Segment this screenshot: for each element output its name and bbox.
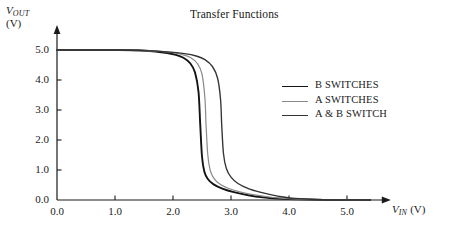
legend-label: A & B SWITCH xyxy=(315,108,387,119)
y-tick-label: 2.0 xyxy=(23,133,49,145)
y-tick-label: 1.0 xyxy=(23,163,49,175)
legend-swatch xyxy=(282,86,308,87)
x-tick-label: 0.0 xyxy=(42,205,72,217)
y-tick-label: 3.0 xyxy=(23,103,49,115)
x-tick-label: 2.0 xyxy=(158,205,188,217)
x-axis-arrowhead xyxy=(382,197,391,204)
legend-swatch xyxy=(282,101,308,102)
plot-area xyxy=(0,0,460,237)
y-axis-arrowhead xyxy=(54,25,61,34)
data-curves-group xyxy=(57,50,370,200)
x-tick-label: 3.0 xyxy=(216,205,246,217)
transfer-functions-chart: Transfer Functions VOUT (V) VIN(V) 0.01.… xyxy=(0,0,460,237)
x-tick-label: 1.0 xyxy=(100,205,130,217)
y-tick-label: 5.0 xyxy=(23,43,49,55)
legend-label: B SWITCHES xyxy=(315,79,379,90)
data-curve xyxy=(57,50,370,200)
y-tick-label: 4.0 xyxy=(23,73,49,85)
legend-swatch xyxy=(282,115,308,116)
x-tick-label: 4.0 xyxy=(274,205,304,217)
legend-label: A SWITCHES xyxy=(315,94,379,105)
x-tick-label: 5.0 xyxy=(332,205,362,217)
y-tick-label: 0.0 xyxy=(23,193,49,205)
